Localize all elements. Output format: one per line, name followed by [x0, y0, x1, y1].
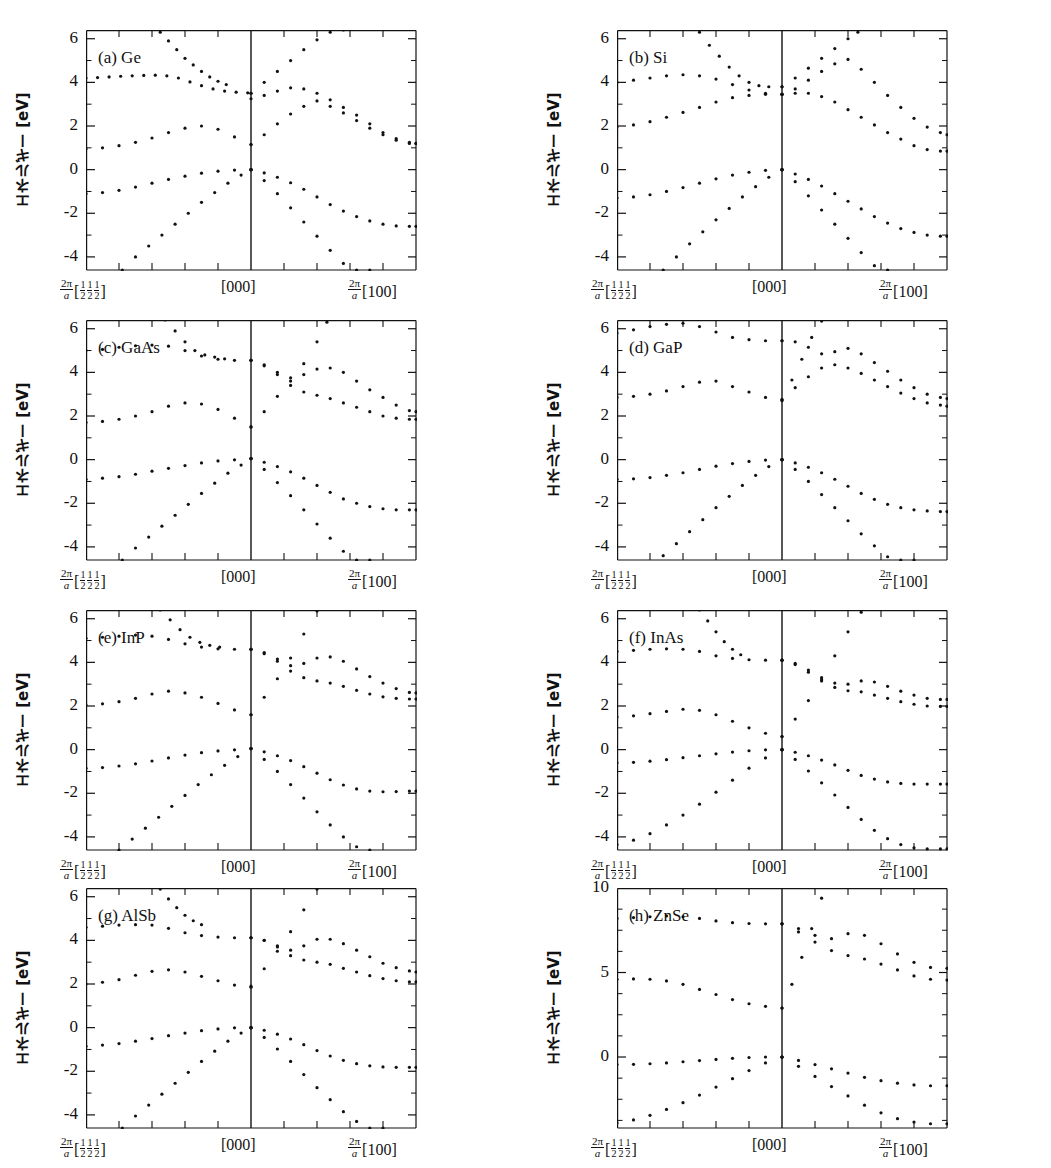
band-series	[780, 922, 948, 970]
band-series	[780, 659, 948, 708]
band-series	[780, 363, 948, 408]
x-axis-label-left: 2πa[121212]	[591, 1136, 637, 1160]
band-series	[249, 888, 318, 988]
band-series	[780, 897, 823, 1010]
band-series	[159, 888, 203, 926]
band-series	[164, 320, 227, 360]
panel-title: (h) ZnSe	[629, 906, 689, 926]
y-tick-label: 6	[40, 318, 78, 338]
y-tick-label: -2	[40, 492, 78, 512]
y-tick-label: 2	[40, 973, 78, 993]
y-tick-label: 2	[571, 405, 609, 425]
x-axis-label-center: [000]	[221, 1136, 256, 1154]
panel-title: (e) InP	[98, 628, 145, 648]
x-axis-label-right: 2πa[100]	[879, 858, 928, 881]
band-series	[780, 92, 948, 153]
x-axis-label-right: 2πa[100]	[879, 568, 928, 591]
y-tick-label: -4	[40, 1104, 78, 1124]
x-axis-label-left: 2πa[121212]	[591, 568, 637, 592]
band-series	[780, 458, 915, 561]
y-tick-label: 4	[571, 651, 609, 671]
band-series	[86, 690, 253, 717]
band-series	[617, 748, 784, 846]
y-axis-label: エネルギー [eV]	[543, 72, 564, 228]
x-axis-label-left: 2πa[121212]	[60, 858, 106, 882]
y-tick-label: 4	[571, 71, 609, 91]
band-series	[698, 610, 742, 656]
band-series	[121, 168, 253, 271]
y-axis-label: エネルギー [eV]	[12, 930, 33, 1086]
band-series	[117, 747, 252, 851]
band-series	[159, 31, 228, 87]
band-series	[249, 99, 417, 146]
y-tick-label: 0	[571, 1046, 609, 1066]
y-tick-label: -2	[40, 1060, 78, 1080]
y-axis-label: エネルギー [eV]	[12, 652, 33, 808]
x-axis-label-left: 2πa[121212]	[591, 278, 637, 302]
band-series	[617, 93, 784, 129]
y-tick-label: 2	[571, 115, 609, 135]
panel-title: (a) Ge	[98, 48, 141, 68]
band-series	[121, 1026, 253, 1129]
x-axis-label-right: 2πa[100]	[879, 278, 928, 301]
x-axis-label-left: 2πa[121212]	[60, 568, 106, 592]
band-series	[617, 1055, 784, 1066]
band-series	[249, 747, 417, 793]
band-structure-figure: エネルギー [eV]6420-2-4(a) Ge2πa[121212][000]…	[0, 0, 1051, 1168]
band-series	[249, 936, 417, 983]
y-tick-label: 5	[571, 962, 609, 982]
y-axis-label: エネルギー [eV]	[12, 362, 33, 518]
band-series	[617, 748, 784, 764]
y-tick-label: 0	[40, 739, 78, 759]
y-tick-label: 0	[40, 449, 78, 469]
band-series	[249, 168, 371, 271]
band-series	[662, 168, 784, 271]
band-series	[249, 1026, 384, 1129]
y-tick-label: 2	[40, 405, 78, 425]
y-axis-label: エネルギー [eV]	[543, 362, 564, 518]
y-tick-label: -2	[571, 782, 609, 802]
y-tick-label: -4	[571, 826, 609, 846]
y-tick-label: 10	[571, 877, 609, 897]
band-series	[249, 168, 417, 228]
band-series	[249, 359, 417, 413]
x-axis-label-right: 2πa[100]	[348, 278, 397, 301]
band-series	[249, 30, 345, 95]
band-series	[86, 968, 253, 989]
band-series	[249, 610, 318, 716]
x-axis-label-center: [000]	[752, 568, 787, 586]
panel-title: (b) Si	[629, 48, 667, 68]
band-series	[86, 1026, 253, 1048]
y-axis-label: エネルギー [eV]	[543, 930, 564, 1086]
y-tick-label: 4	[40, 651, 78, 671]
band-series	[780, 58, 948, 136]
band-series	[617, 1055, 784, 1124]
band-series	[780, 748, 948, 850]
y-tick-label: -4	[40, 536, 78, 556]
panel-title: (g) AlSb	[98, 906, 156, 926]
band-series	[249, 457, 371, 561]
x-axis-label-right: 2πa[100]	[348, 568, 397, 591]
band-series	[780, 458, 948, 513]
x-axis-label-center: [000]	[221, 858, 256, 876]
y-tick-label: 0	[40, 1017, 78, 1037]
x-axis-label-right: 2πa[100]	[348, 1136, 397, 1159]
y-tick-label: 0	[40, 159, 78, 179]
band-series	[249, 1026, 417, 1069]
y-tick-label: 4	[40, 361, 78, 381]
band-series	[617, 708, 784, 738]
x-axis-label-right: 2πa[100]	[879, 1136, 928, 1159]
band-series	[780, 611, 862, 739]
band-series	[159, 610, 222, 649]
y-tick-label: 4	[40, 71, 78, 91]
x-axis-label-center: [000]	[221, 568, 256, 586]
band-series	[780, 659, 948, 701]
band-series	[780, 168, 948, 238]
band-series	[249, 457, 417, 511]
band-series	[249, 648, 417, 701]
y-tick-label: 4	[40, 929, 78, 949]
band-series	[249, 86, 417, 145]
band-series	[617, 379, 784, 402]
y-tick-label: -2	[571, 492, 609, 512]
band-series	[780, 922, 948, 981]
